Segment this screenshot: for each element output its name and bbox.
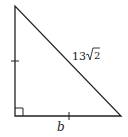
radicand-label: 2 <box>94 50 100 61</box>
hypotenuse-label: 13 <box>72 50 86 63</box>
triangle <box>15 6 121 116</box>
right-angle-marker <box>15 108 23 116</box>
triangle-diagram: 13 2 b <box>0 0 128 137</box>
bottom-leg-label: b <box>57 120 65 134</box>
